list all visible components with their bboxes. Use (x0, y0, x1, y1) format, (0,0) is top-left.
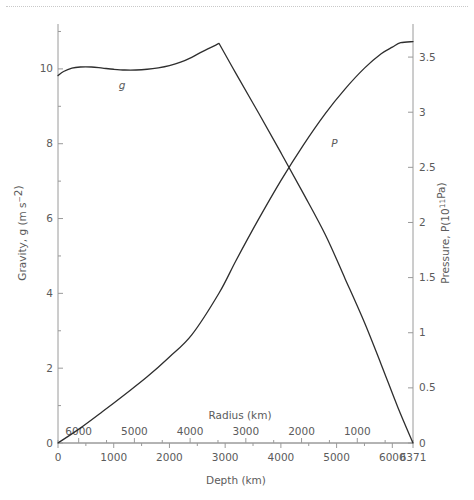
gravity-tick-label: 2 (46, 362, 53, 374)
radius-tick-label: 1000 (344, 425, 371, 437)
pressure-curve-label: P (331, 137, 338, 149)
depth-tick-label: 5000 (323, 451, 350, 463)
gravity-axis-title: Gravity, g (m s−2) (12, 185, 28, 280)
depth-tick-label: 2000 (156, 451, 183, 463)
depth-tick-label: 0 (55, 451, 62, 463)
depth-tick-label: 3000 (212, 451, 239, 463)
depth-tick-label: 4000 (268, 451, 295, 463)
gravity-curve (58, 43, 413, 443)
plot-canvas: 0246810 00.511.522.533.5 010002000300040… (0, 0, 474, 500)
radius-tick-label: 2000 (288, 425, 315, 437)
radius-axis-ticks: 600050004000300020001000 (58, 425, 413, 443)
pressure-tick-label: 2.5 (419, 161, 436, 173)
radius-tick-label: 4000 (177, 425, 204, 437)
gravity-curve-label: g (119, 79, 126, 91)
radius-tick-label: 5000 (121, 425, 148, 437)
figure-container: 0246810 00.511.522.533.5 010002000300040… (0, 0, 474, 500)
pressure-curve (58, 42, 413, 443)
pressure-tick-label: 1 (419, 326, 426, 338)
pressure-tick-label: 3.5 (419, 51, 436, 63)
axes-spines (58, 24, 413, 443)
gravity-tick-label: 4 (46, 287, 53, 299)
depth-axis-ticks: 01000200030004000500060006371 (55, 443, 427, 463)
pressure-tick-label: 0.5 (419, 381, 436, 393)
gravity-tick-label: 6 (46, 212, 53, 224)
depth-tick-label: 6371 (400, 451, 427, 463)
gravity-tick-label: 10 (40, 62, 53, 74)
gravity-tick-label: 8 (46, 137, 53, 149)
pressure-tick-label: 0 (419, 437, 426, 449)
radius-axis-title: Radius (km) (208, 409, 271, 421)
pressure-tick-label: 2 (419, 216, 426, 228)
pressure-axis-ticks: 00.511.522.533.5 (408, 51, 436, 449)
pressure-tick-label: 1.5 (419, 271, 436, 283)
radius-tick-label: 3000 (232, 425, 259, 437)
pressure-axis-title: Pressure, P(1011Pa) (435, 182, 451, 283)
gravity-axis-ticks: 0246810 (40, 31, 63, 448)
pressure-tick-label: 3 (419, 106, 426, 118)
depth-axis-title: Depth (km) (206, 474, 266, 486)
depth-tick-label: 1000 (100, 451, 127, 463)
gravity-tick-label: 0 (46, 437, 53, 449)
